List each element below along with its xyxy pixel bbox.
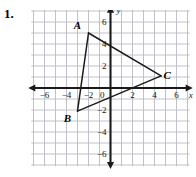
x-axis-label: x [188, 90, 193, 100]
problem-number: 1. [4, 6, 14, 22]
vertex-label-C: C [163, 69, 171, 81]
x-tick-2: 2 [130, 90, 135, 100]
axis-tick-labels: −6−4−20246642−2−4−6xy [40, 10, 193, 159]
vertex-label-A: A [73, 19, 81, 31]
y-tick--6: −6 [97, 149, 107, 159]
y-tick--2: −2 [97, 105, 107, 115]
x-tick--4: −4 [62, 90, 72, 100]
x-tick--2: −2 [84, 90, 94, 100]
x-tick-0: 0 [100, 90, 105, 100]
y-tick-2: 2 [102, 61, 107, 71]
y-tick-6: 6 [102, 17, 107, 27]
x-tick-6: 6 [174, 90, 179, 100]
y-axis-label: y [116, 10, 121, 15]
x-tick--6: −6 [40, 90, 50, 100]
axes [28, 10, 192, 169]
coordinate-plane-svg: −6−4−20246642−2−4−6xy ABC [22, 10, 194, 170]
coordinate-graph: −6−4−20246642−2−4−6xy ABC [22, 10, 194, 170]
figure-root: 1. −6−4−20246642−2−4−6xy ABC [0, 0, 196, 177]
y-tick--4: −4 [97, 127, 107, 137]
x-tick-4: 4 [152, 90, 157, 100]
vertex-label-B: B [63, 112, 71, 124]
